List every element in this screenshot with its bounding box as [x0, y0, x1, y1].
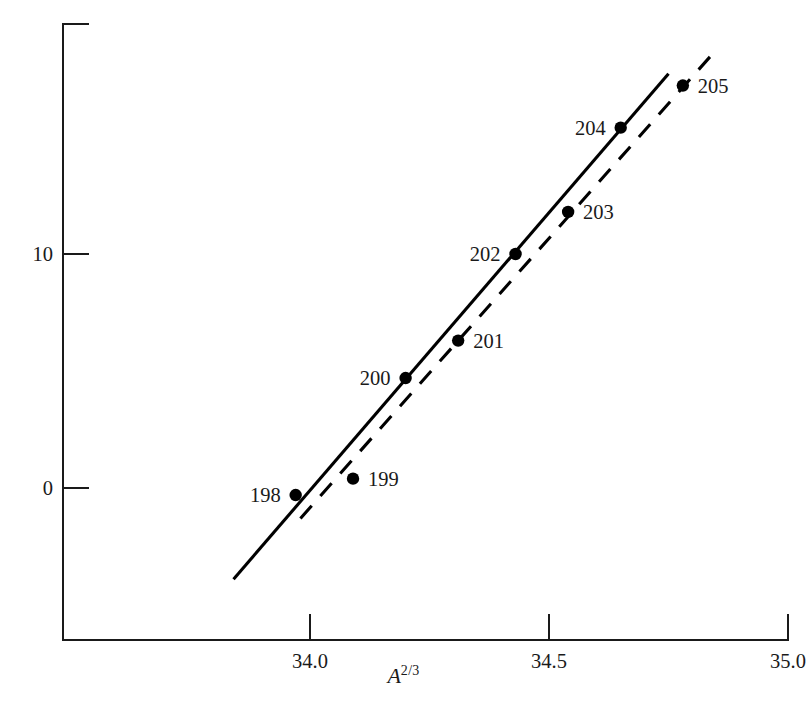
x-tick-label: 35.0 — [770, 650, 806, 672]
data-point-203 — [562, 206, 574, 218]
axes-group — [63, 24, 788, 640]
data-point-202 — [509, 248, 521, 260]
point-labels-group: 198199200201202203204205 — [250, 75, 729, 507]
data-point-199 — [347, 472, 359, 484]
data-point-200 — [399, 372, 411, 384]
data-point-198 — [289, 489, 301, 501]
x-tick-label: 34.5 — [531, 650, 567, 672]
fit-line-odd-isotope-fit — [300, 55, 711, 518]
fit-lines-group — [234, 55, 712, 579]
ticks-group — [63, 24, 788, 640]
data-point-label-202: 202 — [470, 243, 501, 265]
fit-line-even-isotope-fit — [234, 74, 669, 579]
data-point-label-201: 201 — [473, 330, 504, 352]
data-point-205 — [677, 79, 689, 91]
y-tick-label: 0 — [43, 477, 53, 499]
data-point-label-199: 199 — [368, 468, 399, 490]
data-point-label-204: 204 — [575, 117, 606, 139]
data-point-label-205: 205 — [698, 75, 729, 97]
data-point-201 — [452, 334, 464, 346]
data-point-204 — [615, 121, 627, 133]
x-tick-label: 34.0 — [292, 650, 328, 672]
chart-plot-area: 01034.034.535.0 198199200201202203204205 — [0, 0, 807, 707]
figure-container: 01034.034.535.0 198199200201202203204205… — [0, 0, 807, 707]
data-point-label-203: 203 — [583, 201, 614, 223]
data-point-label-200: 200 — [360, 367, 391, 389]
y-tick-label: 10 — [33, 243, 54, 265]
data-points-group — [289, 79, 689, 501]
data-point-label-198: 198 — [250, 484, 281, 506]
tick-labels-group: 01034.034.535.0 — [33, 243, 806, 672]
